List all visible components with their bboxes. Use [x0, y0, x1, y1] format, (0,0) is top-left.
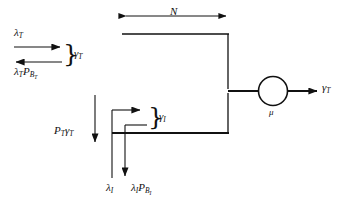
diagram-canvas: λT λTPBT } γT PTγT N } γI λI λIPBI μ γT	[0, 0, 344, 202]
bottom-blocked-label: λIPBI	[131, 182, 151, 193]
server-circle	[259, 77, 288, 106]
server-rate-label: μ	[269, 108, 274, 117]
feedback-label: PTγT	[54, 125, 73, 136]
capacity-label: N	[170, 6, 177, 17]
diagram-vectors	[0, 0, 344, 202]
top-arrival-label: λT	[14, 27, 23, 38]
top-net-label: γT	[74, 48, 83, 59]
top-blocked-label: λTPBT	[14, 66, 37, 77]
output-label: γT	[322, 82, 331, 93]
bottom-net-label: γI	[159, 111, 166, 122]
bottom-arrival-label: λI	[106, 182, 113, 193]
